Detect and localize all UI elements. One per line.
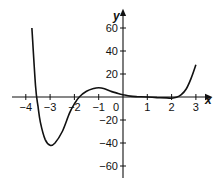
x-tick-label: 1 [144, 101, 150, 113]
x-tick-label: −4 [20, 101, 33, 113]
y-tick-label: 60 [106, 22, 118, 34]
x-tick-label: 2 [169, 101, 175, 113]
x-tick-label: 3 [193, 101, 199, 113]
y-tick-label: −20 [99, 114, 118, 126]
x-tick-label: 0 [113, 101, 119, 113]
y-tick-label: −60 [99, 160, 118, 172]
y-tick-label: 20 [106, 68, 118, 80]
y-axis-label: y [112, 9, 121, 23]
y-tick-label: 40 [106, 45, 118, 57]
x-axis-label: x [204, 93, 213, 107]
x-tick-label: −1 [92, 101, 105, 113]
chart: −4−3−2−10123 604020−20−40−60 x y [0, 0, 218, 185]
x-tick-label: −3 [44, 101, 57, 113]
y-tick-label: −40 [99, 137, 118, 149]
